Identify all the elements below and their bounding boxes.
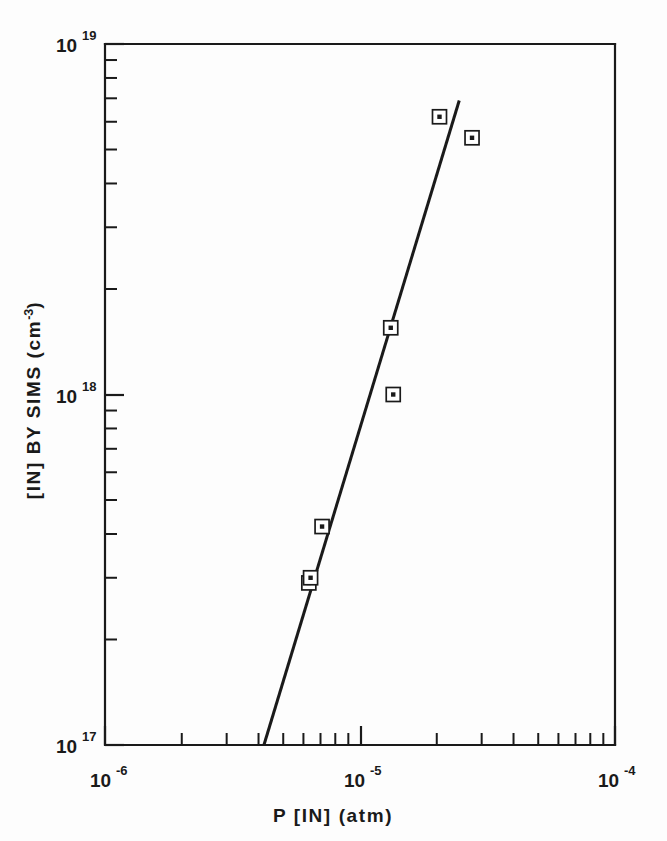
data-point-marker — [465, 131, 479, 145]
x-tick-label-1e-5-exp: -5 — [370, 763, 382, 778]
marker-center-dot — [391, 392, 395, 396]
x-tick-label-1e-4-exp: -4 — [624, 763, 636, 778]
y-axis-title-close: ) — [23, 301, 44, 309]
y-tick-label-1e17-exp: 17 — [82, 729, 96, 744]
marker-center-dot — [320, 524, 324, 528]
y-axis-minor-ticks — [105, 60, 117, 639]
y-tick-label-1e19-base: 10 — [56, 35, 77, 56]
data-point-marker — [386, 388, 400, 402]
x-axis-minor-ticks — [182, 733, 604, 745]
y-tick-label-1e17-base: 10 — [56, 736, 77, 757]
y-tick-label-1e18-base: 10 — [56, 386, 77, 407]
figure-container: 10 19 10 18 10 17 10 -6 10 -5 10 -4 P [I… — [0, 0, 667, 841]
x-tick-label-1e-4-base: 10 — [598, 770, 619, 791]
data-point-marker — [432, 110, 446, 124]
fit-line — [264, 100, 459, 745]
data-point-marker — [304, 571, 318, 585]
y-axis-title-superscript: -3 — [22, 309, 36, 320]
x-tick-labels: 10 -6 10 -5 10 -4 — [90, 763, 636, 791]
y-tick-label-1e19-exp: 19 — [82, 28, 96, 43]
x-axis-title: P [IN] (atm) — [273, 805, 393, 826]
axis-frame-path — [105, 44, 615, 745]
x-tick-label-1e-6-exp: -6 — [116, 763, 128, 778]
y-tick-labels: 10 19 10 18 10 17 — [56, 28, 96, 757]
data-point-marker — [384, 321, 398, 335]
x-tick-label-1e-5-base: 10 — [344, 770, 365, 791]
marker-center-dot — [389, 326, 393, 330]
marker-center-dot — [308, 576, 312, 580]
marker-center-dot — [470, 136, 474, 140]
data-point-markers — [302, 110, 479, 590]
y-axis-title: [IN] BY SIMS (cm-3) — [22, 301, 44, 499]
x-tick-label-1e-6-base: 10 — [90, 770, 111, 791]
y-tick-label-1e18-exp: 18 — [82, 379, 96, 394]
y-axis-title-main: [IN] BY SIMS (cm — [23, 320, 44, 499]
axis-frame — [105, 44, 615, 745]
y-axis-title-group: [IN] BY SIMS (cm-3) — [22, 301, 44, 499]
marker-center-dot — [437, 115, 441, 119]
data-point-marker — [315, 520, 329, 534]
scatter-plot-svg: 10 19 10 18 10 17 10 -6 10 -5 10 -4 P [I… — [0, 0, 667, 841]
